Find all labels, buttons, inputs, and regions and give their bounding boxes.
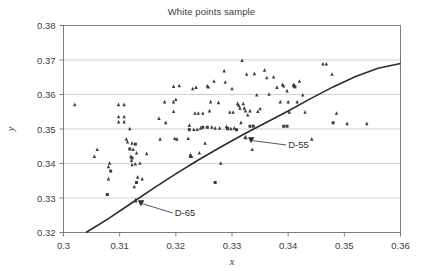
data-point-square <box>226 127 229 130</box>
data-point-triangle <box>117 115 120 119</box>
data-point-triangle <box>245 72 248 76</box>
data-point-triangle <box>295 100 298 104</box>
x-tick-labels: 0.30.310.320.330.340.350.36 <box>57 240 410 251</box>
data-point-triangle <box>239 121 242 125</box>
data-point-triangle <box>197 111 200 115</box>
y-tick-label: 0.36 <box>37 89 56 100</box>
data-point-triangle <box>330 72 333 76</box>
data-point-triangle <box>135 151 138 155</box>
y-tick-label: 0.35 <box>37 124 56 135</box>
data-point-triangle <box>191 87 194 91</box>
illuminant-marker <box>243 135 247 140</box>
data-point-triangle <box>158 137 161 141</box>
x-tick-label: 0.35 <box>335 240 354 251</box>
data-point-square <box>293 85 296 88</box>
x-tick-label: 0.31 <box>110 240 129 251</box>
data-point-triangle <box>145 152 148 156</box>
data-point-triangle <box>131 147 134 151</box>
data-point-triangle <box>157 116 160 120</box>
data-point-triangle <box>178 84 181 88</box>
data-point-triangle <box>222 69 225 73</box>
data-point-square <box>332 121 335 124</box>
y-tick-label: 0.37 <box>37 55 56 66</box>
data-point-triangle <box>265 76 268 80</box>
data-point-square <box>188 128 191 131</box>
data-point-triangle <box>186 136 189 140</box>
data-point-triangle <box>231 110 234 114</box>
data-point-triangle <box>174 97 177 101</box>
x-axis-label: x <box>229 256 235 267</box>
annotation-arrowhead <box>248 137 255 143</box>
data-point-square <box>189 155 192 158</box>
data-point-triangle <box>213 126 216 130</box>
x-tick-label: 0.32 <box>167 240 186 251</box>
data-point-triangle <box>73 103 76 107</box>
annotation-leader-line <box>142 204 172 213</box>
data-point-triangle <box>217 101 220 105</box>
gridlines <box>64 60 401 198</box>
data-point-triangle <box>117 120 120 124</box>
data-point-triangle <box>230 87 233 91</box>
data-point-triangle <box>130 141 133 145</box>
data-point-square <box>106 193 109 196</box>
data-point-triangle <box>122 115 125 119</box>
annotation-label: D-55 <box>288 139 309 150</box>
x-tick-label: 0.34 <box>279 240 298 251</box>
x-tick-label: 0.36 <box>391 240 410 251</box>
data-points <box>73 58 368 196</box>
annotation-label: D-65 <box>175 207 196 218</box>
y-tick-labels: 0.320.330.340.350.360.370.38 <box>37 20 56 238</box>
data-point-triangle <box>285 89 288 93</box>
data-point-triangle <box>219 161 222 165</box>
data-point-square <box>248 125 251 128</box>
data-point-triangle <box>251 147 254 151</box>
data-point-triangle <box>108 161 111 165</box>
data-point-triangle <box>279 100 282 104</box>
data-point-triangle <box>136 175 139 179</box>
data-point-triangle <box>310 137 313 141</box>
data-point-triangle <box>298 79 301 83</box>
data-point-triangle <box>164 121 167 125</box>
data-point-triangle <box>138 161 141 165</box>
data-point-triangle <box>208 109 211 113</box>
x-axis-ticks <box>64 233 401 237</box>
data-point-triangle <box>212 79 215 83</box>
x-tick-label: 0.3 <box>57 240 70 251</box>
data-point-triangle <box>172 84 175 88</box>
data-point-triangle <box>122 120 125 124</box>
data-point-triangle <box>218 126 221 130</box>
data-point-triangle <box>267 92 270 96</box>
y-axis-label: y <box>5 126 16 132</box>
data-point-square <box>252 125 255 128</box>
data-point-triangle <box>93 154 96 158</box>
data-point-square <box>286 125 289 128</box>
data-point-triangle <box>248 109 251 113</box>
data-point-square <box>131 156 134 159</box>
data-point-triangle <box>188 123 191 127</box>
data-point-triangle <box>209 100 212 104</box>
data-point-triangle <box>96 147 99 151</box>
data-point-square <box>282 125 285 128</box>
data-point-triangle <box>210 125 213 129</box>
data-point-triangle <box>198 151 201 155</box>
data-point-triangle <box>303 110 306 114</box>
data-point-triangle <box>140 177 143 181</box>
data-point-square <box>235 128 238 131</box>
data-point-triangle <box>272 75 275 79</box>
data-point-triangle <box>246 113 249 117</box>
data-point-triangle <box>201 111 204 115</box>
data-point-triangle <box>275 85 278 89</box>
y-tick-label: 0.38 <box>37 20 56 31</box>
data-point-triangle <box>258 107 261 111</box>
annotation-arrowhead <box>138 200 145 206</box>
data-point-triangle <box>345 122 348 126</box>
data-point-triangle <box>286 100 289 104</box>
data-point-triangle <box>128 127 131 131</box>
data-point-triangle <box>172 110 175 114</box>
x-tick-label: 0.33 <box>223 240 242 251</box>
data-point-triangle <box>203 141 206 145</box>
annotation-leader-line <box>252 141 286 145</box>
data-point-triangle <box>224 80 227 84</box>
data-point-triangle <box>107 165 110 169</box>
data-point-square <box>134 143 137 146</box>
